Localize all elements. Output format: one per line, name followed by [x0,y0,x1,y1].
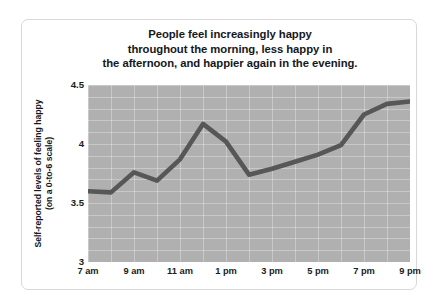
x-axis-tick-9-pm: 9 pm [399,266,421,276]
x-axis-tick-7-am: 7 am [77,266,98,276]
y-axis-tick-labels: 33.544.5 [40,0,84,308]
data-series-layer [88,85,410,262]
line-path [88,102,410,193]
x-axis-tick-9-am: 9 am [123,266,144,276]
chart-title-line-3: the afternoon, and happier again in the … [40,56,420,71]
chart-title-line-2: throughout the morning, less happy in [40,42,420,57]
y-axis-tick-4: 4 [40,139,84,149]
y-axis-tick-4-5: 4.5 [40,80,84,90]
x-axis-tick-11-am: 11 am [167,266,193,276]
happiness-line-series [88,85,410,262]
chart-title-line-1: People feel increasingly happy [40,27,420,42]
x-axis-tick-3-pm: 3 pm [261,266,283,276]
x-axis-tick-5-pm: 5 pm [307,266,329,276]
x-axis-tick-1-pm: 1 pm [215,266,237,276]
x-axis-tick-labels: 7 am9 am11 am1 pm3 pm5 pm7 pm9 pm [88,266,410,282]
plot-area [88,85,410,262]
chart-figure: People feel increasingly happy throughou… [0,0,439,308]
x-axis-tick-7-pm: 7 pm [353,266,375,276]
chart-title: People feel increasingly happy throughou… [40,27,420,71]
y-axis-tick-3-5: 3.5 [40,198,84,208]
